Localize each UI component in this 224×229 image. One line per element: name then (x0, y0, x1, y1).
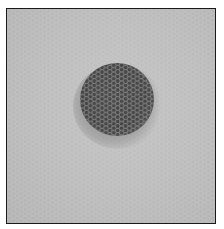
disc-hex-mesh (80, 63, 154, 136)
dark-disc (80, 63, 154, 136)
photo-frame: Grayscale photograph of a hexagonal hone… (6, 8, 216, 224)
